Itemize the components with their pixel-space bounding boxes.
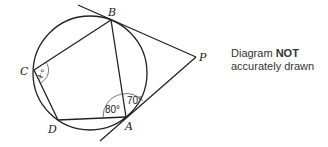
label-point-d: D (47, 123, 57, 136)
chord-ab (111, 20, 126, 117)
angle-label-70: 70° (127, 95, 142, 106)
circle-theorem-diagram: B C D A P 80° 70° x° (0, 0, 220, 147)
chord-da (58, 117, 126, 120)
label-point-b: B (107, 6, 116, 19)
note-line-2: accurately drawn (231, 60, 314, 73)
chord-bc (34, 20, 111, 70)
label-point-p: P (198, 51, 207, 64)
tangent-bp (78, 5, 196, 57)
tangent-ap (100, 57, 196, 141)
note-not-emphasis: NOT (276, 47, 299, 59)
note-line-1: Diagram NOT (231, 47, 314, 60)
label-point-c: C (20, 65, 29, 78)
angle-label-80: 80° (105, 104, 120, 115)
disclaimer-note: Diagram NOT accurately drawn (231, 47, 314, 73)
label-point-a: A (124, 120, 133, 133)
angle-label-x: x° (34, 67, 48, 81)
